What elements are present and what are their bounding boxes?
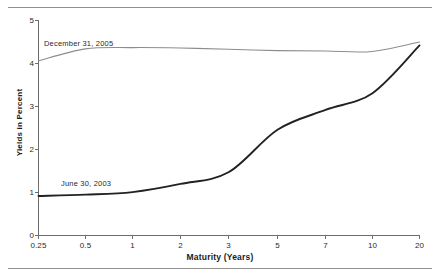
x-tick-label-3: 3 xyxy=(216,241,242,250)
x-tick-label-0-25: 0.25 xyxy=(26,241,52,250)
x-tick-label-0-5: 0.5 xyxy=(73,241,99,250)
y-axis-title: Yields in Percent xyxy=(15,78,24,168)
x-axis-title: Maturity (Years) xyxy=(0,252,440,262)
x-tick-label-10: 10 xyxy=(360,241,386,250)
x-tick-label-7: 7 xyxy=(313,241,339,250)
y-tick-label-0: 0 xyxy=(18,231,34,240)
series-label-june-2003: June 30, 2003 xyxy=(61,179,111,188)
x-tick-label-1: 1 xyxy=(120,241,146,250)
x-tick-label-20: 20 xyxy=(407,241,433,250)
y-axis-tick-marks xyxy=(35,21,39,236)
y-tick-label-1: 1 xyxy=(18,188,34,197)
series-label-december-2005: December 31, 2005 xyxy=(44,39,113,48)
y-tick-label-4: 4 xyxy=(18,59,34,68)
yield-curve-chart: 5 4 3 2 1 0 0.25 0.5 1 2 3 5 7 10 20 Yie… xyxy=(0,0,440,275)
x-tick-label-2: 2 xyxy=(168,241,194,250)
series-line-june-2003 xyxy=(39,45,420,196)
y-tick-label-5: 5 xyxy=(18,16,34,25)
x-tick-label-5: 5 xyxy=(265,241,291,250)
x-axis-tick-marks xyxy=(39,236,420,240)
